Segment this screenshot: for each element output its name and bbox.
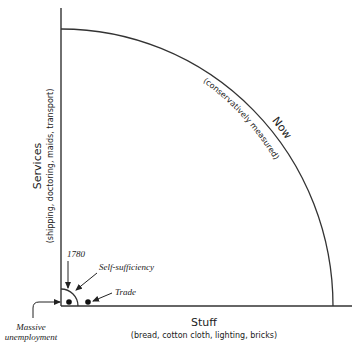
now-label: Now: [269, 114, 294, 141]
y-axis-label: Services: [31, 143, 44, 190]
label-unemployment: unemployment: [5, 332, 58, 342]
now-sublabel: (conservatively measured): [202, 76, 281, 161]
x-axis-label: Stuff: [191, 316, 217, 329]
arrow-self-sufficiency: [76, 273, 97, 290]
arrow-massive-unemployment: [33, 302, 60, 318]
trade-point: [85, 299, 91, 305]
arrow-trade: [93, 293, 112, 301]
label-1780: 1780: [67, 249, 86, 259]
label-trade: Trade: [115, 287, 136, 297]
label-self-sufficiency: Self-sufficiency: [99, 262, 154, 272]
x-axis-sublabel: (bread, cotton cloth, lighting, bricks): [131, 331, 277, 340]
self-sufficiency-point: [66, 299, 72, 305]
label-massive: Massive: [15, 322, 46, 332]
ppf-diagram: Now (conservatively measured) Services (…: [0, 0, 362, 354]
y-axis-sublabel: (shipping, doctoring, maids, transport): [46, 89, 55, 244]
